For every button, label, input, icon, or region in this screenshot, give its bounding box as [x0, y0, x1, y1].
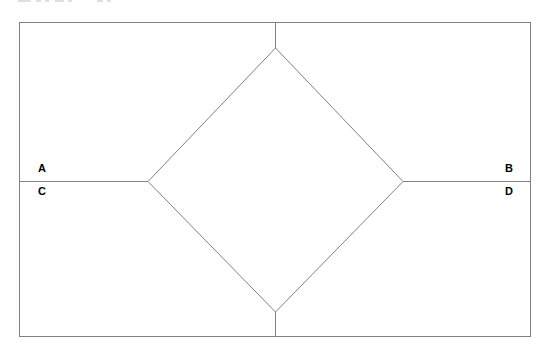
- geometry-diagram: [0, 0, 549, 357]
- vertex-label-d: D: [505, 185, 513, 197]
- vertex-label-b: B: [505, 162, 513, 174]
- vertex-label-c: C: [38, 185, 46, 197]
- figure-canvas: A C B D: [0, 0, 549, 357]
- outer-rectangle: [20, 23, 531, 337]
- vertex-label-a: A: [38, 162, 46, 174]
